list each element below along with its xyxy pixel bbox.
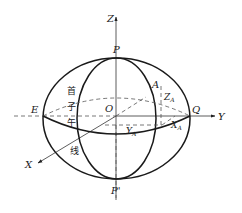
meridian-char-3: 午 [67, 117, 76, 128]
y-axis-label: Y [218, 111, 226, 122]
north-pole-label: P [112, 44, 120, 55]
e-label: E [30, 104, 39, 115]
meridian-char-4: 线 [70, 145, 79, 156]
q-label: Q [192, 104, 200, 115]
south-pole-label: P' [110, 185, 120, 196]
prime-meridian-ellipse [77, 58, 156, 179]
x-axis-label: X [24, 159, 33, 170]
xa-label: XA [170, 120, 182, 131]
meridian-char-2: 子 [67, 102, 76, 112]
ya-label: YA [126, 126, 137, 137]
za-label: ZA [163, 92, 175, 103]
meridian-char-1: 首 [67, 85, 76, 96]
z-axis-label: Z [106, 13, 115, 24]
a-label: A [151, 79, 159, 90]
equator-front [43, 116, 190, 134]
origin-label: O [105, 103, 113, 114]
coordinate-system-diagram: Z Y X P P' O E Q A ZA XA YA 首 子 午 线 [0, 0, 242, 213]
outer-ellipsoid [43, 58, 190, 179]
